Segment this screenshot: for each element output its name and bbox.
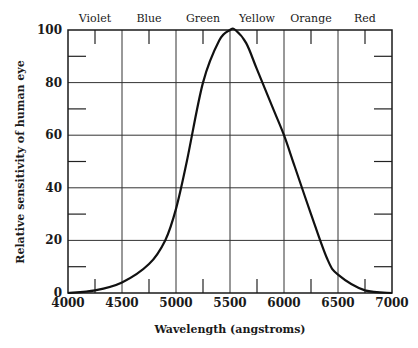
band-label-red: Red xyxy=(354,12,376,25)
x-tick-labels: 4000450050005500600065007000 xyxy=(51,296,408,310)
y-tick-label: 20 xyxy=(45,233,62,247)
x-tick-label: 6500 xyxy=(321,296,354,310)
x-tick-label: 5500 xyxy=(213,296,246,310)
x-tick-label: 4500 xyxy=(105,296,138,310)
band-label-yellow: Yellow xyxy=(238,12,275,25)
x-tick-label: 5000 xyxy=(159,296,192,310)
y-tick-label: 60 xyxy=(45,128,62,142)
grid-lines xyxy=(68,30,392,293)
y-tick-label: 40 xyxy=(45,181,62,195)
band-label-blue: Blue xyxy=(136,12,161,25)
x-axis-title: Wavelength (angstroms) xyxy=(153,323,305,336)
x-tick-label: 6000 xyxy=(267,296,300,310)
band-label-violet: Violet xyxy=(78,12,112,25)
y-tick-label: 0 xyxy=(54,286,62,300)
y-tick-label: 100 xyxy=(37,23,62,37)
band-label-green: Green xyxy=(186,12,220,25)
sensitivity-chart: VioletBlueGreenYellowOrangeRed 400045005… xyxy=(0,0,418,348)
y-axis-title: Relative sensitivity of human eye xyxy=(14,60,27,264)
y-tick-label: 80 xyxy=(45,76,62,90)
band-label-orange: Orange xyxy=(290,12,331,25)
x-tick-label: 7000 xyxy=(375,296,408,310)
color-band-labels: VioletBlueGreenYellowOrangeRed xyxy=(78,12,376,25)
y-tick-labels: 020406080100 xyxy=(37,23,62,300)
